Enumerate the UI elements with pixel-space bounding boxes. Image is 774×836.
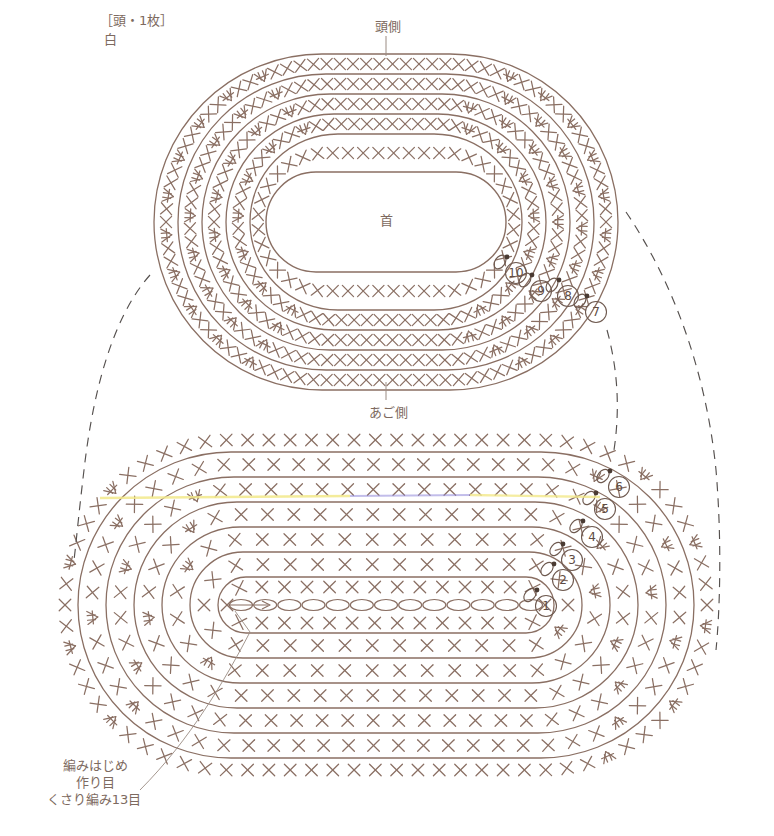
head-band-0-stitch xyxy=(590,163,604,177)
body-band-4-stitch xyxy=(611,516,627,532)
head-band-1-stitch xyxy=(308,79,320,91)
head-band-inner-stitch xyxy=(358,285,369,296)
body-band-2-stitch xyxy=(311,534,323,546)
head-band-1-stitch xyxy=(571,248,585,262)
body-band-2-stitch xyxy=(311,665,323,677)
head-band-1-increase xyxy=(521,322,538,338)
head-band-0-stitch xyxy=(172,279,187,294)
head-band-0-stitch xyxy=(585,279,600,294)
neck-hole-label: 首 xyxy=(366,212,406,231)
body-band-outer-increase xyxy=(666,696,682,713)
body-band-outer-stitch xyxy=(519,764,531,776)
svg-text:5: 5 xyxy=(601,502,609,516)
head-band-1-stitch xyxy=(413,354,424,365)
head-band-3-stitch xyxy=(309,119,322,132)
body-band-3-stitch xyxy=(446,509,458,521)
body-band-3-stitch xyxy=(149,559,164,574)
body-band-2-stitch xyxy=(531,533,544,546)
head-band-0-increase xyxy=(513,354,529,369)
body-band-outer-stitch xyxy=(701,599,713,611)
head-band-0-increase xyxy=(162,188,174,203)
head-band-3-stitch xyxy=(449,311,462,324)
head-band-inner-stitch xyxy=(255,237,269,251)
body-band-4-stitch xyxy=(145,516,161,532)
head-band-2-stitch xyxy=(451,99,464,112)
head-band-1-increase xyxy=(207,134,223,151)
head-band-0-stitch xyxy=(387,58,398,69)
head-band-1-increase xyxy=(500,92,516,107)
body-band-outer-stitch xyxy=(433,434,445,446)
head-band-2-increase xyxy=(282,105,298,119)
head-band-3-stitch xyxy=(472,127,487,142)
head-band-0-stitch xyxy=(294,59,307,72)
head-band-2-increase xyxy=(209,228,221,242)
head-side-label: 頭側 xyxy=(358,18,418,37)
head-band-1-stitch xyxy=(413,78,424,89)
head-band-inner-stitch xyxy=(261,250,276,265)
head-band-0-stitch xyxy=(453,374,465,386)
body-band-4-increase xyxy=(129,657,145,674)
body-band-outer-stitch xyxy=(560,762,573,775)
body-band-5-stitch xyxy=(343,459,355,471)
body-band-4-stitch xyxy=(495,484,507,496)
head-band-1-stitch xyxy=(374,78,385,89)
body-band-outer-stitch xyxy=(652,481,668,497)
head-band-inner-stitch xyxy=(373,147,384,158)
head-band-2-stitch xyxy=(348,98,359,109)
foundation-chain-link xyxy=(495,600,518,611)
head-band-1-increase xyxy=(224,313,241,330)
body-band-5-stitch xyxy=(218,739,230,751)
body-band-2-stitch xyxy=(421,665,433,677)
body-band-3-stitch xyxy=(393,509,405,521)
body-band-4-stitch xyxy=(316,715,328,727)
head-band-inner-stitch xyxy=(462,150,476,164)
head-band-3-stitch xyxy=(522,184,536,198)
body-band-0-stitch xyxy=(504,617,516,629)
head-band-1-stitch xyxy=(187,183,201,197)
head-band-0-increase xyxy=(254,69,270,84)
body-band-outer-stitch xyxy=(412,434,424,446)
body-band-2-stitch xyxy=(366,665,378,677)
body-band-5-stitch xyxy=(542,739,554,751)
body-band-outer-stitch xyxy=(70,660,85,675)
head-band-2-increase xyxy=(223,152,239,169)
head-band-3-stitch xyxy=(233,196,246,209)
head-band-0-stitch xyxy=(572,127,588,143)
head-band-inner-stitch xyxy=(418,147,429,158)
body-band-4-increase xyxy=(645,585,657,599)
head-band-3-stitch xyxy=(361,314,372,325)
head-band-0-stitch xyxy=(594,254,608,268)
head-band-1-stitch xyxy=(281,347,295,361)
head-band-3-increase xyxy=(240,171,255,187)
head-band-3-stitch xyxy=(400,118,411,129)
head-band-1-stitch xyxy=(489,87,504,102)
head-band-2-stitch xyxy=(539,164,554,179)
head-band-1-stitch xyxy=(387,78,398,89)
head-band-0-stitch xyxy=(361,374,372,385)
head-band-1-increase xyxy=(549,293,565,310)
head-band-inner-stitch xyxy=(434,147,445,158)
body-band-1-stitch xyxy=(476,640,488,652)
head-band-2-increase xyxy=(239,296,256,313)
body-band-outer-stitch xyxy=(678,679,694,695)
head-band-2-stitch xyxy=(486,319,501,334)
head-band-1-stitch xyxy=(374,354,385,365)
body-band-outer-stitch xyxy=(497,434,509,446)
body-band-outer-stitch xyxy=(476,434,488,446)
body-band-5-increase xyxy=(588,469,604,484)
body-band-5-stitch xyxy=(146,713,162,729)
head-band-3-stitch xyxy=(437,118,449,130)
body-band-4-stitch xyxy=(569,706,584,721)
body-band-4-stitch xyxy=(367,484,379,496)
body-band-2-stitch xyxy=(228,664,241,677)
head-band-2-increase xyxy=(210,189,223,204)
head-band-2-stitch xyxy=(231,142,247,158)
body-band-outer-stitch xyxy=(120,467,136,483)
svg-text:9: 9 xyxy=(537,284,545,298)
head-band-1-stitch xyxy=(387,354,398,365)
body-band-3-stitch xyxy=(499,509,511,521)
head-band-1-stitch xyxy=(464,351,477,364)
body-band-5-stitch xyxy=(566,734,580,748)
svg-text:6: 6 xyxy=(615,480,623,494)
head-band-1-stitch xyxy=(245,98,260,113)
